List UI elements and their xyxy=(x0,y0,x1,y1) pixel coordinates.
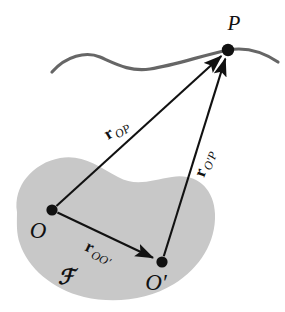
vector-diagram-figure: P O O′ r OP r O′P r OO′ ℱ xyxy=(0,0,285,312)
point-marker-Oprime xyxy=(156,256,167,267)
vector-diagram-canvas: P O O′ r OP r O′P r OO′ ℱ xyxy=(0,0,285,312)
point-marker-P xyxy=(222,44,234,56)
svg-text:O′P: O′P xyxy=(201,149,221,172)
point-label-O: O xyxy=(30,218,47,243)
point-label-P: P xyxy=(227,11,241,35)
point-marker-O xyxy=(46,204,57,215)
point-label-Oprime: O′ xyxy=(145,270,168,295)
vector-label-r-OprimeP: r O′P xyxy=(190,146,220,180)
trajectory-curve xyxy=(52,49,278,72)
